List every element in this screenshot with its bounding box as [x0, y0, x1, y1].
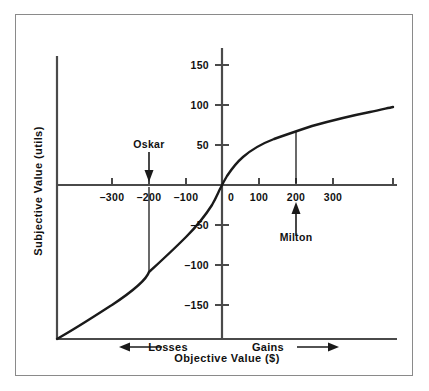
y-axis-title: Subjective Value (utils) [32, 91, 44, 291]
oskar-annotation-label: Oskar [114, 138, 184, 150]
y-tick-label-100: 100 [163, 99, 209, 111]
x-tick-label-300: 300 [310, 191, 356, 203]
milton-annotation-label: Milton [261, 231, 331, 243]
prospect-theory-value-function-figure: Subjective Value (utils) Objective Value… [0, 0, 429, 391]
milton-arrow-head [292, 202, 301, 214]
x-tick-label--100: –100 [163, 191, 209, 203]
y-tick-label--100: –100 [163, 259, 209, 271]
oskar-annotation-group [145, 152, 154, 272]
x-axis-title: Objective Value ($) [57, 352, 397, 364]
y-tick-label--150: –150 [163, 299, 209, 311]
gains-region-label: Gains [228, 341, 308, 353]
oskar-arrow-head [145, 170, 154, 182]
losses-region-label: Losses [128, 341, 208, 353]
y-tick-label--50: –50 [163, 219, 209, 231]
gains-arrow-head [328, 343, 339, 352]
y-tick-label-150: 150 [163, 59, 209, 71]
